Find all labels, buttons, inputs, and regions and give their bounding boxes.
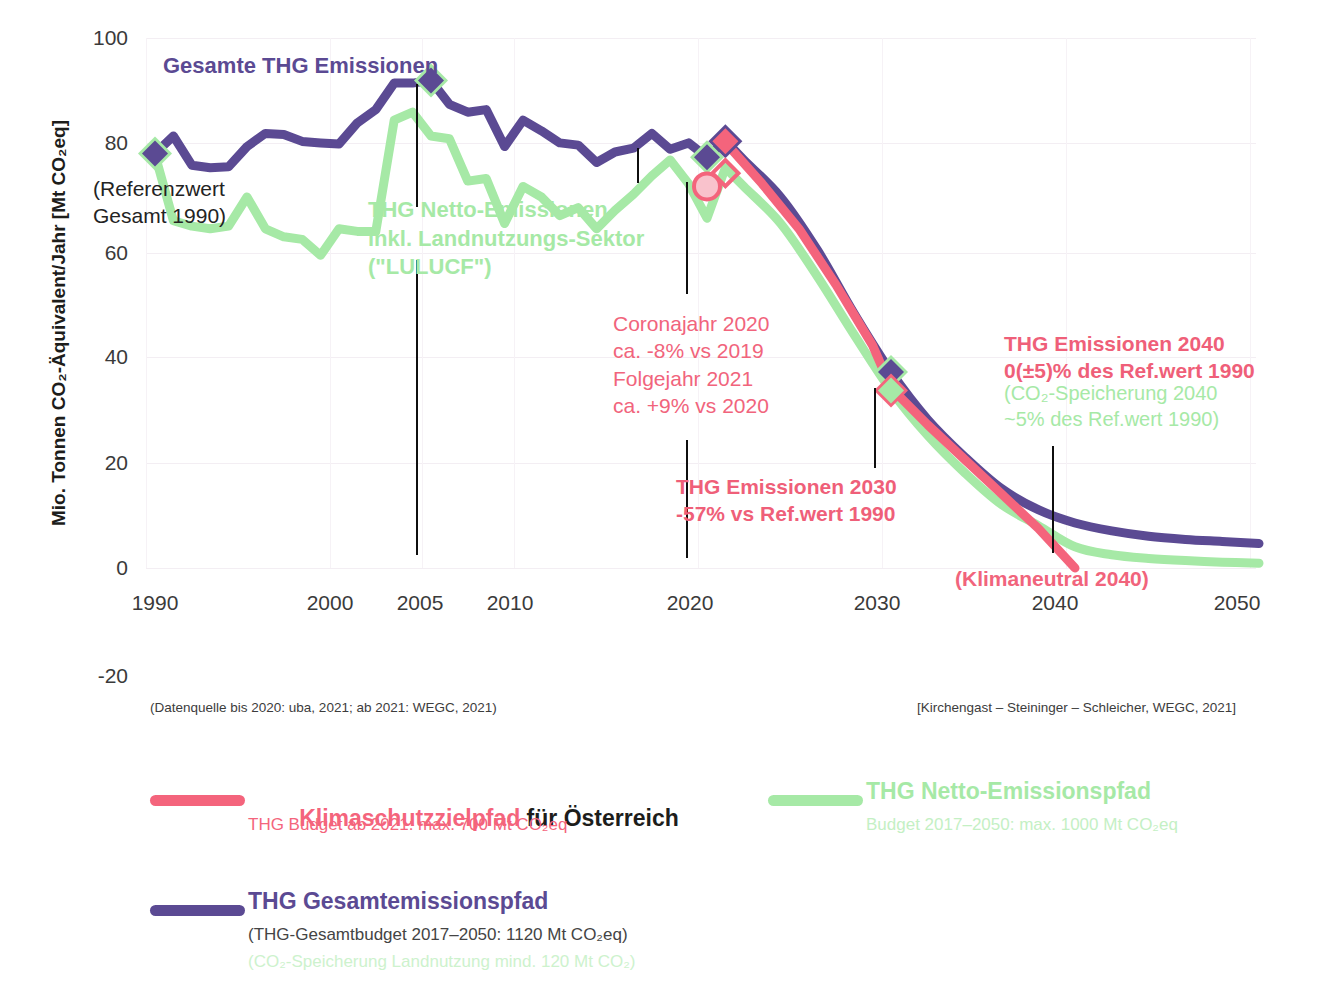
annotation-klimaneutral: (Klimaneutral 2040) (955, 565, 1149, 592)
legend-swatch-green (768, 795, 863, 806)
annotation-netto-emissionen: THG Netto-Emissioneninkl. Landnutzungs-S… (368, 196, 644, 282)
annotation-gesamte-thg: Gesamte THG Emissionen (163, 52, 438, 81)
leader-2005 (416, 84, 418, 207)
chart-root: Mio. Tonnen CO₂-Äquivalent/Jahr [Mt CO₂e… (0, 0, 1339, 999)
leader-2030 (874, 388, 876, 468)
annotation-referenzwert: (ReferenzwertGesamt 1990) (93, 175, 226, 230)
legend-sub-netto: Budget 2017–2050: max. 1000 Mt CO₂eq (866, 815, 1178, 835)
legend-sub-klima: THG Budget ab 2021: max. 700 Mt CO₂eq (248, 815, 567, 835)
y-tick-40: 40 (58, 345, 128, 369)
x-tick-1990: 1990 (110, 591, 200, 615)
legend-sub-gesamt: (THG-Gesamtbudget 2017–2050: 1120 Mt CO₂… (248, 925, 628, 945)
y-tick-20: 20 (58, 451, 128, 475)
legend-swatch-purple (150, 905, 245, 916)
x-tick-2020: 2020 (645, 591, 735, 615)
legend-title-netto: THG Netto-Emissionspfad (866, 778, 1151, 805)
x-tick-2000: 2000 (285, 591, 375, 615)
leader-2040 (1052, 446, 1054, 553)
legend-title-gesamt: THG Gesamtemissionspfad (248, 888, 548, 915)
leader-2005-lower (416, 260, 418, 555)
annotation-ziel-2040: THG Emissionen 20400(±5)% des Ref.wert 1… (1004, 330, 1255, 385)
y-tick-80: 80 (58, 131, 128, 155)
y-tick-100: 100 (58, 26, 128, 50)
annotation-speicherung-2040: (CO₂-Speicherung 2040~5% des Ref.wert 19… (1004, 380, 1219, 432)
x-tick-2010: 2010 (465, 591, 555, 615)
x-tick-2040: 2040 (1010, 591, 1100, 615)
legend: Klimaschutzzielpfad für Österreich THG B… (0, 760, 1339, 990)
leader-2017 (637, 148, 639, 183)
leader-2020 (686, 182, 688, 294)
y-tick-60: 60 (58, 241, 128, 265)
legend-sub-gesamt-2: (CO₂-Speicherung Landnutzung mind. 120 M… (248, 952, 635, 972)
y-tick--20: -20 (58, 664, 128, 688)
x-tick-2005: 2005 (375, 591, 465, 615)
x-tick-2030: 2030 (832, 591, 922, 615)
y-axis-title: Mio. Tonnen CO₂-Äquivalent/Jahr [Mt CO₂e… (48, 88, 70, 558)
note-source: (Datenquelle bis 2020: uba, 2021; ab 202… (150, 700, 497, 715)
y-tick-0: 0 (58, 556, 128, 580)
annotation-coronajahr: Coronajahr 2020ca. -8% vs 2019Folgejahr … (613, 310, 769, 419)
x-tick-2050: 2050 (1192, 591, 1282, 615)
legend-swatch-red (150, 795, 245, 806)
note-credit: [Kirchengast – Steininger – Schleicher, … (917, 700, 1236, 715)
annotation-ziel-2030: THG Emissionen 2030-57% vs Ref.wert 1990 (676, 473, 897, 528)
